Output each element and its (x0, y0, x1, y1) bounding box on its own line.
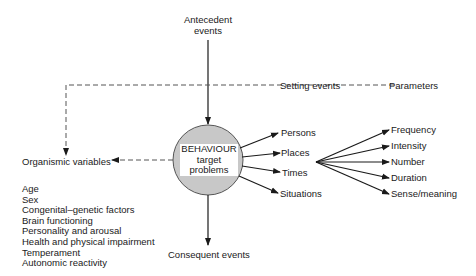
arrow-situations (239, 176, 278, 193)
arrow-persons (240, 133, 278, 148)
core-line1: BEHAVIOUR (180, 144, 238, 155)
core-line3: problems (180, 165, 238, 176)
arrow-duration (316, 162, 389, 178)
arrow-frequency (316, 130, 389, 162)
setting-events-label: Setting events (280, 80, 340, 91)
param-intensity: Intensity (391, 140, 426, 151)
context-places: Places (281, 147, 310, 158)
behaviour-core-label: BEHAVIOUR target problems (180, 144, 238, 176)
context-persons: Persons (281, 127, 316, 138)
arrow-times (242, 166, 280, 172)
organismic-variables-label: Organismic variables (22, 156, 111, 167)
list-item: Autonomic reactivity (22, 258, 155, 269)
arrow-places (242, 153, 280, 157)
list-item: Health and physical impairment (22, 237, 155, 248)
param-number: Number (391, 156, 425, 167)
context-times: Times (282, 167, 308, 178)
arrow-sense-meaning (316, 162, 389, 194)
antecedent-label: Antecedent events (176, 14, 240, 36)
context-situations: Situations (280, 188, 322, 199)
antecedent-line2: events (176, 25, 240, 36)
consequent-events-label: Consequent events (168, 249, 250, 260)
param-duration: Duration (391, 172, 427, 183)
param-sense-meaning: Sense/meaning (391, 188, 457, 199)
arrow-intensity (316, 146, 389, 162)
parameters-heading: Parameters (389, 80, 438, 91)
antecedent-line1: Antecedent (176, 14, 240, 25)
organismic-list: Age Sex Congenital–genetic factors Brain… (22, 184, 155, 269)
param-frequency: Frequency (391, 124, 436, 135)
list-item: Age (22, 184, 155, 195)
